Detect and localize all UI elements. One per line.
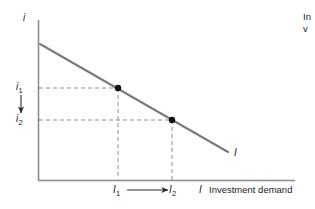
x-tick-label-I1-subscript: 1	[116, 189, 120, 198]
x-axis-variable-label: I	[199, 185, 202, 195]
investment-demand-curve	[40, 44, 228, 152]
y-tick-label-i1-base: i	[16, 81, 18, 92]
data-point-2	[169, 117, 175, 123]
y-tick-label-i1: i1	[16, 82, 22, 92]
side-caption-line-2: v	[303, 23, 308, 35]
plot-canvas	[0, 0, 315, 209]
data-point-1	[115, 85, 121, 91]
y-tick-label-i2: i2	[16, 114, 22, 124]
y-tick-label-i1-subscript: 1	[19, 86, 23, 95]
y-axis-label: i	[23, 13, 25, 23]
x-tick-label-I1: I1	[113, 185, 120, 195]
investment-demand-figure: i i1 i2 I1 I2 I Investment demand I In v	[0, 0, 315, 209]
y-tick-label-i2-base: i	[16, 113, 18, 124]
x-tick-label-I2: I2	[169, 185, 176, 195]
x-axis-title: Investment demand	[209, 185, 292, 195]
x-tick-label-I2-subscript: 2	[172, 189, 176, 198]
curve-label: I	[234, 148, 237, 158]
y-tick-label-i2-subscript: 2	[19, 118, 23, 127]
side-caption-line-1: In	[303, 11, 311, 23]
